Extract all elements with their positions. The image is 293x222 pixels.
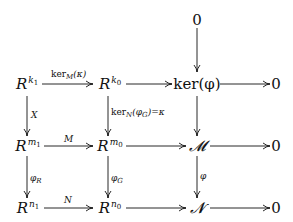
label-kerN-phiG-kappa: kerN(φG)=κ: [111, 108, 165, 119]
label-phi-G: φG: [111, 174, 123, 185]
node-zero-row3: 0: [271, 201, 281, 216]
node-ker-phi: ker(φ): [173, 77, 220, 92]
node-M-module: 𝓜: [189, 139, 206, 154]
label-kerM-kappa: kerM(κ): [51, 70, 86, 81]
label-M: M: [64, 135, 73, 144]
node-R-n0: Rn0: [99, 200, 122, 216]
label-phi-R: φR: [30, 174, 42, 185]
label-N: N: [64, 196, 72, 205]
node-R-k0: Rk0: [99, 76, 121, 92]
node-N-module: 𝓝: [190, 201, 204, 216]
node-R-n1: Rn1: [17, 200, 40, 216]
node-zero-row2: 0: [271, 139, 281, 154]
label-X: X: [31, 111, 37, 120]
node-R-k1: Rk1: [16, 76, 38, 92]
node-top-zero: 0: [192, 13, 202, 28]
node-R-m0: Rm0: [97, 138, 122, 154]
label-phi: φ: [200, 172, 206, 181]
node-R-m1: Rm1: [15, 138, 40, 154]
node-zero-row1: 0: [271, 77, 281, 92]
